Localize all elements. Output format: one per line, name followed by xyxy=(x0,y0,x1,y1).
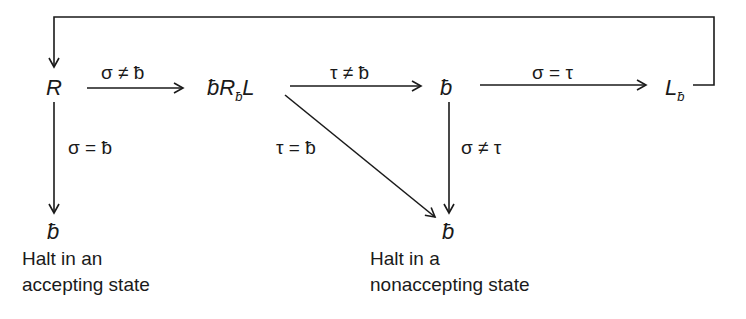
node-start: R xyxy=(46,77,62,99)
node-halt-reject-label: ƀ xyxy=(442,219,454,244)
node-left-blank-subscript: ƀ xyxy=(677,89,684,104)
caption-halt-accept-line1: Halt in an xyxy=(22,246,150,272)
node-brl-suffix: L xyxy=(242,75,254,100)
edge-label-compare-to-left: σ = τ xyxy=(532,63,573,82)
edge-label-brl-to-compare: τ ≠ ƀ xyxy=(330,63,369,82)
edge-label-compare-to-reject: σ ≠ τ xyxy=(461,138,501,157)
caption-halt-reject-line1: Halt in a xyxy=(370,246,530,272)
edge-label-brl-to-reject: τ = ƀ xyxy=(276,138,316,157)
node-start-label: R xyxy=(46,75,62,100)
node-brl-prefix: ƀR xyxy=(207,75,235,100)
caption-halt-reject: Halt in a nonaccepting state xyxy=(370,246,530,298)
node-halt-accept-label: ƀ xyxy=(47,219,59,244)
node-compare: ƀ xyxy=(440,77,452,99)
edge-label-start-to-brl: σ ≠ ƀ xyxy=(101,63,144,82)
node-left-blank: Lƀ xyxy=(665,77,684,99)
caption-halt-accept-line2: accepting state xyxy=(22,272,150,298)
edge-loop-back xyxy=(54,17,714,85)
caption-halt-reject-line2: nonaccepting state xyxy=(370,272,530,298)
caption-halt-accept: Halt in an accepting state xyxy=(22,246,150,298)
edge-label-start-to-accept: σ = ƀ xyxy=(68,138,112,157)
node-halt-accept: ƀ xyxy=(47,221,59,243)
node-compare-label: ƀ xyxy=(440,75,452,100)
node-blank-right-left: ƀRƀL xyxy=(207,77,255,99)
node-halt-reject: ƀ xyxy=(442,221,454,243)
node-left-blank-label: L xyxy=(665,75,677,100)
node-brl-subscript: ƀ xyxy=(235,89,242,104)
